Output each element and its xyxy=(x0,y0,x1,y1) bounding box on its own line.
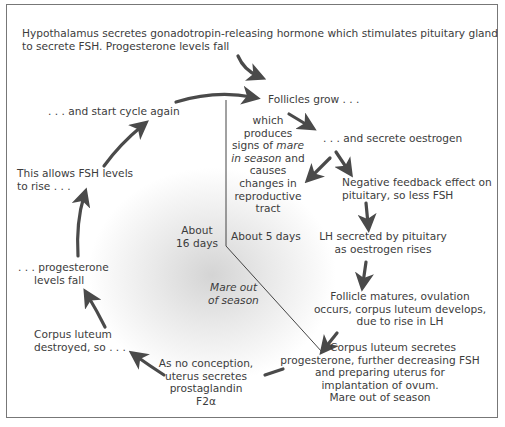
duration-in-season: About 5 days xyxy=(231,230,301,243)
conception-line1: As no conception, xyxy=(156,357,256,370)
step-hypothalamus-line2: to secrete FSH. Progesterone levels fall xyxy=(22,40,229,53)
conception-line2: uterus secretes xyxy=(156,370,256,383)
arrow-feedback-to-lh xyxy=(366,203,368,224)
signs-line4-post: and xyxy=(281,152,304,164)
out-duration-line1: About xyxy=(170,224,224,237)
label-mare-out-of-season: Mare out of season xyxy=(208,281,259,306)
signs-line3: signs of mare xyxy=(228,139,308,152)
luteum-line4: implantation of ovum. xyxy=(280,379,480,392)
arrow-progesterone-to-fsh xyxy=(78,196,84,256)
signs-line3-italic: mare xyxy=(276,139,304,151)
luteum-line3: and preparing uterus for xyxy=(280,366,480,379)
arrow-oestrogen-to-signs xyxy=(311,158,330,177)
lh-line1: LH secreted by pituitary xyxy=(318,230,448,243)
matures-line1: Follicle matures, ovulation xyxy=(310,290,490,303)
step-follicles-grow: Follicles grow . . . xyxy=(268,93,359,106)
step-negative-feedback: Negative feedback effect on pituitary, s… xyxy=(342,176,492,201)
conception-line4: F2α xyxy=(156,395,256,408)
out-duration-line2: 16 days xyxy=(170,237,224,250)
signs-line6: changes in xyxy=(228,177,308,190)
step-corpus-luteum-destroyed: Corpus luteum destroyed, so . . . xyxy=(34,328,126,353)
conception-line3: prostaglandin xyxy=(156,382,256,395)
arrow-oestrogen-to-feedback xyxy=(336,152,348,170)
step-start-again: . . . and start cycle again xyxy=(48,105,180,118)
duration-out-of-season: About 16 days xyxy=(170,224,224,249)
arrow-fsh-to-start xyxy=(104,126,142,166)
destroyed-line2: destroyed, so . . . xyxy=(34,341,126,354)
signs-line4-italic: in season xyxy=(231,152,281,164)
arrow-hypothalamus-to-follicles xyxy=(238,56,258,76)
progesterone-line2: levels fall xyxy=(18,274,109,287)
matures-line3: due to rise in LH xyxy=(310,315,490,328)
fsh-line2: to rise . . . xyxy=(17,180,133,193)
arrow-start-to-follicles xyxy=(176,94,252,102)
fsh-line1: This allows FSH levels xyxy=(17,167,133,180)
signs-line7: reproductive xyxy=(228,190,308,203)
step-follicle-matures: Follicle matures, ovulation occurs, corp… xyxy=(310,290,490,328)
step-progesterone-fall: . . . progesterone levels fall xyxy=(18,261,109,286)
matures-line2: occurs, corpus luteum develops, xyxy=(310,303,490,316)
signs-line2: produces xyxy=(228,127,308,140)
signs-line1: which xyxy=(228,114,308,127)
step-no-conception: As no conception, uterus secretes prosta… xyxy=(156,357,256,407)
luteum-line2: progesterone, further decreasing FSH xyxy=(280,354,480,367)
feedback-line2: pituitary, so less FSH xyxy=(342,189,492,202)
signs-line5: causes xyxy=(228,164,308,177)
lh-line2: as oestrogen rises xyxy=(318,243,448,256)
luteum-line5: Mare out of season xyxy=(280,391,480,404)
out-label-line1: Mare out xyxy=(208,281,259,294)
step-fsh-rise: This allows FSH levels to rise . . . xyxy=(17,167,133,192)
step-hypothalamus-line1: Hypothalamus secretes gonadotropin-relea… xyxy=(22,27,498,40)
signs-line3-pre: signs of xyxy=(232,139,276,151)
luteum-line1: Corpus luteum secretes xyxy=(280,341,480,354)
step-secrete-oestrogen: . . . and secrete oestrogen xyxy=(323,132,462,145)
feedback-line1: Negative feedback effect on xyxy=(342,176,492,189)
arrow-lh-to-follicle-matures xyxy=(363,262,366,283)
signs-line4: in season and xyxy=(228,152,308,165)
out-label-line2: of season xyxy=(208,294,259,307)
step-signs-in-season: which produces signs of mare in season a… xyxy=(228,114,308,215)
step-corpus-luteum-secretes: Corpus luteum secretes progesterone, fur… xyxy=(280,341,480,404)
destroyed-line1: Corpus luteum xyxy=(34,328,126,341)
progesterone-line1: . . . progesterone xyxy=(18,261,109,274)
signs-line8: tract xyxy=(228,202,308,215)
arrow-destroyed-to-progesterone xyxy=(88,296,105,327)
step-lh-secreted: LH secreted by pituitary as oestrogen ri… xyxy=(318,230,448,255)
